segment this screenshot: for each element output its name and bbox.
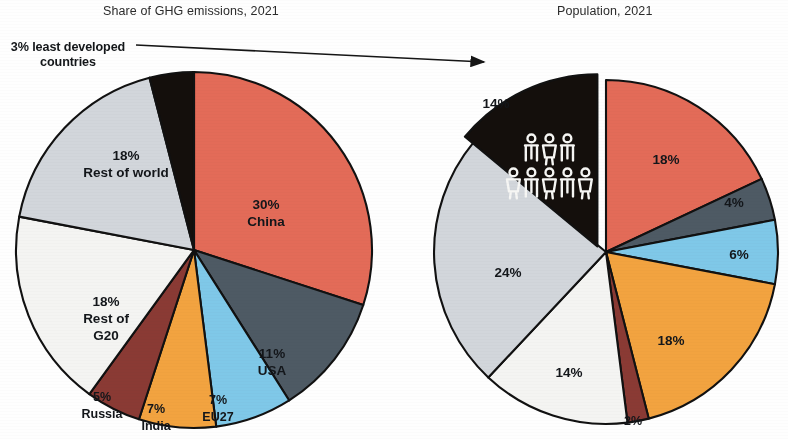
label-russia-pct: 2%: [624, 414, 642, 428]
callout-line-1: 3% least developed: [11, 40, 125, 54]
label-india-pct: 18%: [657, 333, 684, 348]
label-india-pct: 7%: [147, 402, 165, 416]
label-rest-of-world-pct: 18%: [112, 148, 139, 163]
label-russia-pct: 5%: [93, 390, 111, 404]
label-rest-of-g20-pct: 18%: [92, 294, 119, 309]
least-developed-callout-label: 3% least developed countries: [2, 40, 134, 71]
label-eu27-pct: 7%: [209, 393, 227, 407]
ghg-emissions-pie-chart: 30% China 11% USA 7% EU27 7% India 5% Ru…: [8, 48, 380, 436]
label-usa-pct: 11%: [259, 346, 285, 361]
label-rest-of-world-pct: 24%: [494, 265, 521, 280]
label-least-developed-pct: 14%: [482, 96, 509, 111]
label-russia-name: Russia: [82, 407, 124, 421]
label-china-pct: 30%: [252, 197, 279, 212]
label-rest-of-g20-name1: Rest of: [83, 311, 129, 326]
label-rest-of-g20-pct: 14%: [555, 365, 582, 380]
label-eu27-name: EU27: [202, 410, 233, 424]
label-eu27-pct: 6%: [729, 247, 749, 262]
left-chart-title: Share of GHG emissions, 2021: [103, 4, 279, 18]
population-pie-chart: 14% 18% 4% 6% 18% 2% 14% 24%: [430, 48, 786, 438]
label-india-name: India: [141, 419, 171, 433]
label-usa-pct: 4%: [724, 195, 744, 210]
callout-line-2: countries: [40, 55, 96, 69]
label-usa-name: USA: [258, 363, 287, 378]
right-chart-title: Population, 2021: [557, 4, 652, 18]
two-pie-chart-figure: Share of GHG emissions, 2021 Population,…: [0, 0, 788, 439]
label-rest-of-world-name: Rest of world: [83, 165, 169, 180]
label-china-pct: 18%: [652, 152, 679, 167]
label-china-name: China: [247, 214, 285, 229]
label-rest-of-g20-name2: G20: [93, 328, 119, 343]
